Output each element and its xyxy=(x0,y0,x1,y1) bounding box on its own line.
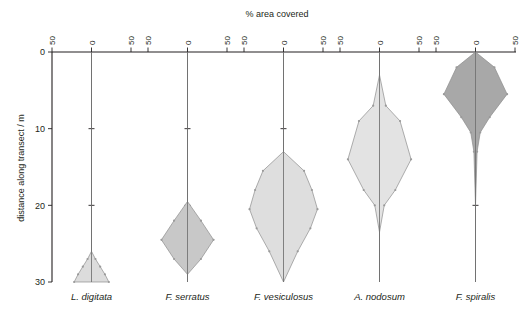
x-axis-tick-label: 50 xyxy=(415,36,424,45)
violin-vertex-marker xyxy=(256,227,258,229)
violin-vertex-marker xyxy=(77,273,79,275)
violin-vertex-marker xyxy=(460,116,462,118)
x-axis-tick-label: 50 xyxy=(144,36,153,45)
violin-vertex-marker xyxy=(311,189,313,191)
violin-vertex-marker xyxy=(506,93,508,95)
x-axis-title: % area covered xyxy=(245,9,308,19)
chart-canvas: % area covered distance along transect /… xyxy=(0,0,532,312)
violin-vertex-marker xyxy=(374,204,376,206)
violin-vertex-marker xyxy=(297,250,299,252)
x-axis-tick-label: 0 xyxy=(472,40,481,45)
violin-vertex-marker xyxy=(73,281,75,283)
violin-vertex-marker xyxy=(262,170,264,172)
violin-vertex-marker xyxy=(443,93,445,95)
violin-plot-figure: % area covered distance along transect /… xyxy=(0,0,532,312)
violin-vertex-marker xyxy=(248,208,250,210)
violin-vertex-marker xyxy=(173,258,175,260)
violin-vertex-marker xyxy=(212,239,214,241)
violin-vertex-marker xyxy=(473,151,475,153)
x-axis-tick-label: 50 xyxy=(223,36,232,45)
species-label: L. digitata xyxy=(71,291,112,302)
violin-vertex-marker xyxy=(309,227,311,229)
species-label: F. spiralis xyxy=(456,291,496,302)
x-axis-tick-label: 0 xyxy=(184,40,193,45)
violin-vertex-marker xyxy=(173,220,175,222)
x-axis-tick-label: 50 xyxy=(432,36,441,45)
y-axis-tick-label: 0 xyxy=(40,47,45,57)
y-axis-tick-label: 30 xyxy=(35,277,45,287)
species-label: F. vesiculosus xyxy=(254,291,313,302)
violin-vertex-marker xyxy=(455,66,457,68)
violin-vertex-marker xyxy=(489,116,491,118)
x-axis-tick-label: 0 xyxy=(88,40,97,45)
violin-vertex-marker xyxy=(399,120,401,122)
violin-vertex-marker xyxy=(94,258,96,260)
violin-vertex-marker xyxy=(268,250,270,252)
violin-vertex-marker xyxy=(358,120,360,122)
violin-vertex-marker xyxy=(410,158,412,160)
violin-vertex-marker xyxy=(363,189,365,191)
x-axis-tick-label: 50 xyxy=(127,36,136,45)
violin-vertex-marker xyxy=(316,208,318,210)
violin-vertex-marker xyxy=(200,220,202,222)
violin-vertex-marker xyxy=(86,258,88,260)
violin-vertex-marker xyxy=(476,151,478,153)
violin-vertex-marker xyxy=(82,266,84,268)
violin-vertex-marker xyxy=(493,66,495,68)
x-axis-tick-label: 0 xyxy=(376,40,385,45)
violin-vertex-marker xyxy=(383,204,385,206)
violin-vertex-marker xyxy=(99,266,101,268)
y-axis-tick-label: 20 xyxy=(35,201,45,211)
x-axis-tick-label: 0 xyxy=(280,40,289,45)
x-axis-tick-label: 50 xyxy=(511,36,520,45)
violin-vertex-marker xyxy=(394,189,396,191)
violin-vertex-marker xyxy=(385,105,387,107)
violin-vertex-marker xyxy=(254,189,256,191)
x-axis-tick-label: 50 xyxy=(48,36,57,45)
violin-vertex-marker xyxy=(479,131,481,133)
violin-vertex-marker xyxy=(372,105,374,107)
y-axis-title: distance along transect / m xyxy=(16,114,26,222)
y-axis-tick-label: 10 xyxy=(35,124,45,134)
violin-vertex-marker xyxy=(104,273,106,275)
violin-vertex-marker xyxy=(303,170,305,172)
species-label: A. nodosum xyxy=(353,291,405,302)
x-axis-tick-label: 50 xyxy=(319,36,328,45)
plot-area: 010203050050L. digitata50050F. serratus5… xyxy=(35,36,520,302)
x-axis-tick-label: 50 xyxy=(336,36,345,45)
species-label: F. serratus xyxy=(165,291,209,302)
violin-vertex-marker xyxy=(160,239,162,241)
x-axis-tick-label: 50 xyxy=(240,36,249,45)
violin-vertex-marker xyxy=(347,158,349,160)
violin-vertex-marker xyxy=(108,281,110,283)
violin-vertex-marker xyxy=(200,258,202,260)
violin-vertex-marker xyxy=(470,131,472,133)
